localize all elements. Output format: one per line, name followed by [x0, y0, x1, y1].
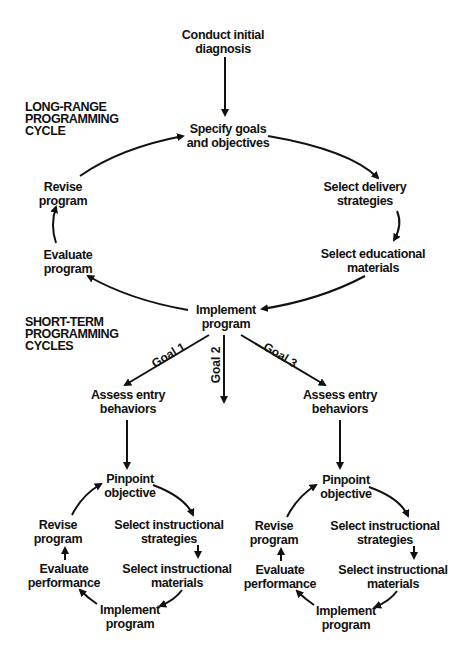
c1-node-evaluate: Evaluate performance — [28, 562, 100, 590]
arrow-specify-to-delivery — [268, 136, 378, 178]
node-implement-program: Implement program — [196, 303, 256, 331]
c1-arrow-revise-to-pinpoint — [72, 484, 101, 515]
c2-arrow-revise-to-pinpoint — [287, 485, 316, 517]
node-specify-goals: Specify goals and objectives — [187, 122, 270, 150]
node-conduct-diagnosis: Conduct initial diagnosis — [182, 28, 264, 56]
c2-node-select-strategies: Select instructional strategies — [330, 519, 439, 547]
c2-arrow-materials-to-implement — [375, 591, 397, 607]
c1-arrow-materials-to-implement — [160, 590, 182, 606]
c2-arrow-pinpoint-to-strategies — [369, 487, 408, 516]
arrow-revise-to-specify — [80, 136, 183, 176]
label-long-range-cycle: LONG-RANGE PROGRAMMING CYCLE — [25, 101, 119, 137]
node-evaluate-program: Evaluate program — [43, 248, 92, 276]
label-short-term-cycles: SHORT-TERM PROGRAMMING CYCLES — [25, 316, 119, 352]
c2-node-pinpoint: Pinpoint objective — [320, 473, 372, 501]
node-select-delivery: Select delivery strategies — [323, 180, 406, 208]
arrow-materials-to-implement — [262, 276, 365, 309]
c2-node-implement: Implement program — [316, 604, 376, 632]
arrow-evaluate-to-revise — [53, 207, 56, 243]
arrow-delivery-to-materials — [394, 211, 399, 240]
c1-node-select-materials: Select instructional materials — [122, 562, 231, 590]
c1-arrow-implement-to-evaluate — [80, 590, 97, 604]
c1-node-assess-entry: Assess entry behaviors — [91, 388, 165, 416]
c1-node-revise: Revise program — [34, 518, 83, 546]
c1-node-implement: Implement program — [100, 603, 160, 631]
c2-node-revise: Revise program — [250, 519, 299, 547]
node-revise-program: Revise program — [39, 180, 88, 208]
c2-node-select-materials: Select instructional materials — [338, 563, 447, 591]
arrow-implement-to-evaluate — [88, 276, 188, 310]
node-select-educational-materials: Select educational materials — [321, 247, 425, 275]
c1-node-select-strategies: Select instructional strategies — [114, 518, 223, 546]
label-goal-2: Goal 2 — [209, 347, 223, 384]
c2-node-evaluate: Evaluate performance — [244, 563, 316, 591]
c2-arrow-implement-to-evaluate — [297, 591, 314, 605]
c1-arrow-pinpoint-to-strategies — [153, 485, 193, 515]
c1-node-pinpoint: Pinpoint objective — [104, 472, 156, 500]
c2-node-assess-entry: Assess entry behaviors — [303, 388, 377, 416]
